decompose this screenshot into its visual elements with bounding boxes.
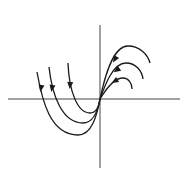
- diagram-svg: [0, 0, 184, 173]
- trajectory-right-middle: [100, 63, 143, 99]
- axes: [8, 25, 180, 168]
- trajectory-left-middle: [48, 67, 100, 123]
- trajectory-curve: [100, 46, 150, 99]
- trajectory-curve: [37, 72, 100, 135]
- trajectories: [37, 46, 150, 135]
- arrowhead-icon: [48, 85, 55, 93]
- phase-portrait-diagram: [0, 0, 184, 173]
- trajectory-curve: [49, 67, 100, 123]
- trajectory-curve: [68, 63, 100, 113]
- trajectory-left-inner: [67, 63, 100, 113]
- trajectory-right-outer: [100, 46, 150, 99]
- trajectory-left-outer: [37, 72, 100, 135]
- arrowhead-icon: [67, 82, 74, 89]
- trajectory-curve: [100, 63, 143, 99]
